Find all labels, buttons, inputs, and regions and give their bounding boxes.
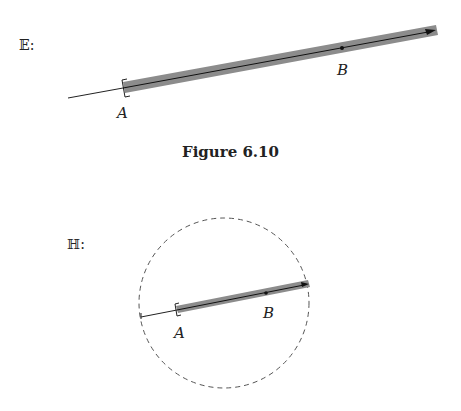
ray-extension-line (68, 88, 123, 98)
point-a-label: A (117, 104, 128, 122)
ray-line (177, 285, 304, 310)
point-b-dot (340, 46, 344, 50)
euclidean-figure (68, 25, 438, 98)
point-b-dot (264, 291, 268, 295)
hyperbolic-figure (139, 218, 310, 388)
ray-line (123, 32, 428, 88)
space-label-hyperbolic: ℍ: (67, 236, 85, 252)
point-b-label: B (337, 61, 348, 79)
point-b-label: B (263, 304, 274, 322)
diagram-canvas (0, 0, 461, 411)
space-label-euclidean: 𝔼: (19, 37, 34, 53)
point-a-label: A (174, 324, 185, 342)
ray-extension-line (141, 310, 177, 317)
figure-caption: Figure 6.10 (0, 143, 461, 161)
